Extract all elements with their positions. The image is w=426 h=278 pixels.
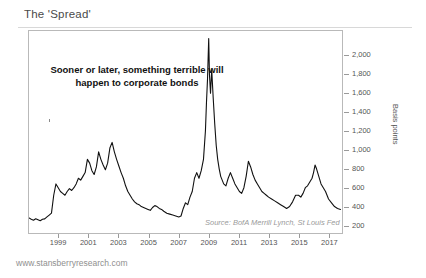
y-tick-label: 1,800: [352, 69, 371, 78]
y-tick-mark: [344, 207, 349, 208]
x-tick-label: 2009: [201, 238, 218, 247]
y-tick-mark: [344, 150, 349, 151]
title-divider: [18, 27, 412, 28]
y-tick-mark: [344, 55, 349, 56]
y-tick-label: 1,400: [352, 107, 371, 116]
x-tick-label: 2013: [261, 238, 278, 247]
x-tick-label: 2001: [80, 238, 97, 247]
source-credit: Source: BofA Merrill Lynch, St Louis Fed: [205, 218, 340, 227]
y-tick-mark: [344, 169, 349, 170]
y-tick-mark: [344, 93, 349, 94]
y-axis-title: Basis points: [391, 104, 400, 144]
y-tick-label: 400: [352, 202, 365, 211]
y-tick-label: 1,600: [352, 88, 371, 97]
y-tick-label: 1,200: [352, 126, 371, 135]
y-tick-label: 2,000: [352, 50, 371, 59]
plot-area: [28, 30, 343, 234]
y-tick-mark: [344, 131, 349, 132]
x-tick-label: 2011: [231, 238, 247, 247]
x-tick-label: 2005: [140, 238, 157, 247]
page-title: The 'Spread': [24, 8, 91, 20]
y-tick-mark: [344, 112, 349, 113]
chart-screenshot: The 'Spread' Sooner or later, something …: [0, 0, 426, 278]
y-tick-label: 800: [352, 164, 365, 173]
x-tick-label: 2007: [170, 238, 187, 247]
y-tick-mark: [344, 74, 349, 75]
x-tick-label: 1999: [50, 238, 67, 247]
y-tick-label: 1,000: [352, 145, 371, 154]
x-tick-label: 2015: [291, 238, 308, 247]
chart-annotation: Sooner or later, something terrible will…: [42, 63, 232, 89]
footer-url: www.stansberryresearch.com: [16, 258, 127, 268]
y-tick-label: 200: [352, 221, 365, 230]
x-tick-label: 2017: [321, 238, 338, 247]
spread-line-chart: [29, 31, 342, 233]
x-tick-label: 2003: [110, 238, 127, 247]
stray-mark: [49, 119, 50, 122]
y-tick-mark: [344, 226, 349, 227]
y-tick-mark: [344, 188, 349, 189]
y-tick-label: 600: [352, 183, 365, 192]
